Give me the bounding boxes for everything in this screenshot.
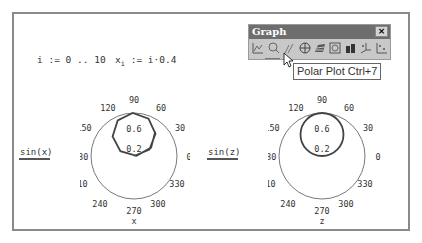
radial-tick-0.2: 0.2 [314, 144, 329, 154]
close-button[interactable]: × [375, 26, 388, 37]
tick-90: 90 [129, 95, 139, 105]
x-def-rhs: := i·0.4 [125, 54, 176, 65]
selected-tool-indicator [265, 58, 280, 59]
graph-toolbar-titlebar[interactable]: Graph × [249, 25, 390, 39]
tick-330: 330 [357, 179, 372, 189]
xy-plot-icon[interactable] [252, 41, 264, 55]
tick-120: 120 [288, 103, 303, 113]
tick-210: 210 [268, 179, 276, 189]
polar-plot-left[interactable]: 90 60 30 0 330 300 270 240 210 180 150 1… [80, 90, 190, 230]
x-definition[interactable]: xi := i·0.4 [115, 54, 176, 68]
tick-30: 30 [175, 123, 185, 133]
tick-300: 300 [150, 199, 165, 209]
radial-tick-0.6: 0.6 [126, 124, 141, 134]
radial-tick-0.2: 0.2 [126, 144, 141, 154]
tick-270: 270 [126, 206, 141, 216]
range-definition[interactable]: i := 0 .. 10 [37, 54, 106, 65]
tick-0: 0 [186, 152, 190, 162]
tick-240: 240 [280, 199, 295, 209]
tick-270: 270 [314, 206, 329, 216]
tick-30: 30 [363, 123, 373, 133]
scatter-plot-3d-icon[interactable] [360, 41, 372, 55]
tick-0: 0 [375, 152, 380, 162]
tick-210: 210 [80, 179, 88, 189]
tick-60: 60 [344, 103, 354, 113]
tick-90: 90 [317, 95, 327, 105]
contour-plot-icon[interactable] [329, 41, 341, 55]
tick-180: 180 [80, 152, 88, 162]
zoom-icon[interactable] [267, 41, 279, 55]
tooltip: Polar Plot Ctrl+7 [293, 63, 381, 80]
tick-150: 150 [80, 123, 92, 133]
tick-240: 240 [92, 199, 107, 209]
bar-plot-3d-icon[interactable] [345, 41, 357, 55]
radial-tick-0.6: 0.6 [314, 124, 329, 134]
vector-field-icon[interactable] [376, 41, 388, 55]
trace-line-left [19, 158, 50, 160]
tick-150: 150 [268, 123, 280, 133]
graph-toolbar[interactable]: Graph × [248, 24, 391, 60]
tick-300: 300 [338, 199, 353, 209]
tick-180: 180 [268, 152, 276, 162]
tick-330: 330 [169, 179, 184, 189]
trace-label-right[interactable]: sin(z) [208, 147, 241, 157]
trace-label-left[interactable]: sin(x) [20, 147, 53, 157]
polar-plot-right[interactable]: 90 60 30 0 330 300 270 240 210 180 150 1… [268, 90, 383, 230]
tick-120: 120 [100, 103, 115, 113]
graph-toolbar-title: Graph [252, 26, 287, 37]
angle-axis-label[interactable]: z [319, 216, 324, 226]
tick-60: 60 [156, 103, 166, 113]
angle-axis-label[interactable]: x [131, 216, 136, 226]
trace-line-right [207, 158, 238, 160]
surface-plot-icon[interactable] [314, 41, 326, 55]
polar-plot-icon[interactable] [298, 41, 310, 55]
